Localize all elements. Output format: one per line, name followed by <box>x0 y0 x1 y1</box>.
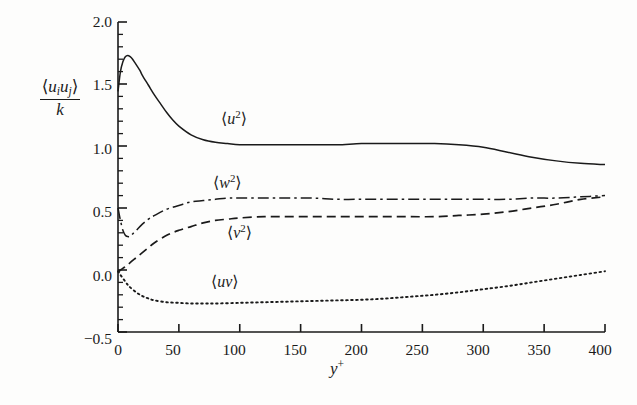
series-curve-0 <box>118 55 605 164</box>
series-curve-2 <box>118 197 605 273</box>
axes-group <box>118 22 605 332</box>
curves-group <box>118 55 605 303</box>
figure-container: ⟨uiuj⟩ k y+ 2.0 1.5 1.0 0.5 0.0 −0.5 0 5… <box>0 0 637 405</box>
plot-canvas <box>0 0 637 405</box>
series-curve-3 <box>118 271 605 303</box>
